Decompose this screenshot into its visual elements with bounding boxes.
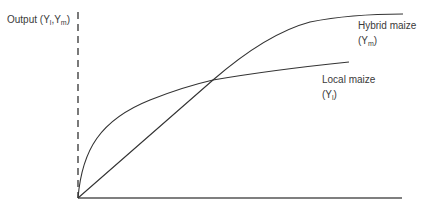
hybrid-maize-label: Hybrid maize (358, 20, 416, 32)
local-maize-curve (78, 62, 349, 198)
local-maize-symbol: (Yl) (322, 89, 337, 104)
y-axis-label: Output (Yl,Ym) (7, 14, 70, 29)
hybrid-maize-curve (78, 14, 403, 198)
hybrid-maize-symbol: (Ym) (358, 35, 377, 50)
local-maize-label: Local maize (322, 74, 375, 86)
